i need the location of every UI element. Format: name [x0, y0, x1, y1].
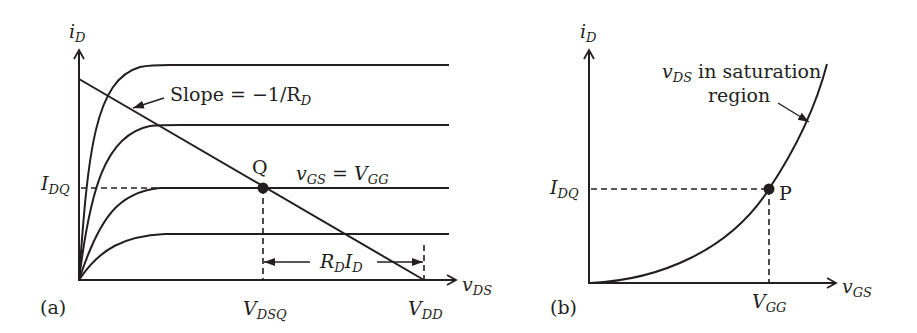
figure-a: iD vDS Slope = −1/RD Q vGS = VGG IDQ RDI…	[40, 20, 492, 322]
idq-label-b: IDQ	[549, 176, 579, 201]
panel-label-a: (a)	[40, 296, 66, 318]
x-axis-label-a: vDS	[462, 273, 492, 298]
vgs-label: vGS = VGG	[296, 162, 389, 187]
q-label: Q	[252, 156, 268, 178]
vdsq-label: VDSQ	[243, 297, 287, 322]
panel-label-b: (b)	[550, 296, 577, 318]
curve-label-line1: vDS in saturation	[662, 60, 821, 85]
rdid-label: RDID	[319, 250, 363, 275]
p-label: P	[779, 182, 792, 204]
mosfet-characteristics-diagram: iD vDS Slope = −1/RD Q vGS = VGG IDQ RDI…	[0, 0, 917, 333]
p-point	[764, 184, 775, 195]
idq-label-a: IDQ	[40, 172, 70, 197]
q-point	[258, 183, 269, 194]
slope-label: Slope = −1/RD	[170, 83, 312, 108]
x-axis-label-b: vGS	[842, 275, 872, 300]
drain-curve-2	[79, 125, 449, 280]
vgg-label: VGG	[752, 290, 787, 315]
y-axis-label-a: iD	[69, 20, 86, 45]
slope-pointer	[133, 98, 164, 108]
vdd-label: VDD	[408, 297, 443, 322]
saturation-pointer	[778, 103, 809, 122]
drain-curve-4	[79, 234, 449, 280]
curve-label-line2: region	[708, 84, 770, 106]
y-axis-label-b: iD	[580, 20, 597, 45]
figure-b: iD vGS vDS in saturation region P IDQ VG…	[549, 20, 872, 318]
